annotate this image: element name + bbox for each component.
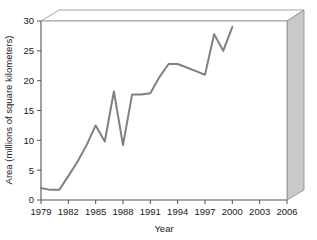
x-axis-tick-label: 1985 <box>85 206 106 217</box>
y-axis-tick-label: 5 <box>29 165 34 176</box>
y-axis-tick-label: 15 <box>23 105 34 116</box>
x-axis-title: Year <box>154 223 173 234</box>
x-axis-ticks <box>41 200 287 204</box>
y-axis-tick-label: 30 <box>23 15 34 26</box>
x-axis-tick-label: 1991 <box>140 206 161 217</box>
y-axis-tick-label: 10 <box>23 135 34 146</box>
y-axis-title: Area (millions of square kilometers) <box>3 36 14 185</box>
x-axis-tick-label: 1994 <box>167 206 188 217</box>
x-axis-tick-label: 2006 <box>276 206 297 217</box>
chart-figure: 051015202530 197919821985198819911994199… <box>0 0 317 240</box>
x-axis-tick-label: 2000 <box>222 206 243 217</box>
chart-box-top-face <box>41 10 304 21</box>
y-axis-ticks <box>37 21 41 200</box>
x-axis-tick-label: 1982 <box>58 206 79 217</box>
y-axis-tick-labels: 051015202530 <box>23 15 34 205</box>
x-axis-tick-labels: 1979198219851988199119941997200020032006 <box>30 206 297 217</box>
y-axis-tick-label: 0 <box>29 194 34 205</box>
x-axis-tick-label: 2003 <box>249 206 270 217</box>
y-axis-tick-label: 25 <box>23 45 34 56</box>
x-axis-tick-label: 1979 <box>30 206 51 217</box>
chart-box-right-face <box>287 10 304 200</box>
x-axis-tick-label: 1997 <box>194 206 215 217</box>
chart-plot-area <box>41 21 287 200</box>
line-chart-svg: 051015202530 197919821985198819911994199… <box>0 0 317 240</box>
y-axis-tick-label: 20 <box>23 75 34 86</box>
x-axis-tick-label: 1988 <box>112 206 133 217</box>
